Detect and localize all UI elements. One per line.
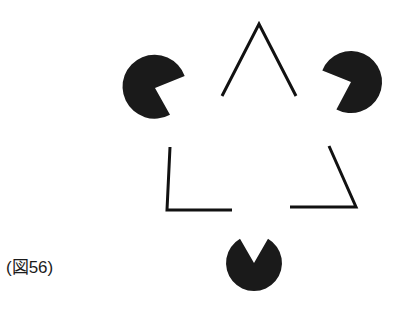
disc-top-left [123, 55, 185, 119]
disc-bottom [226, 239, 282, 291]
triangle-apex-corner-stroke [222, 24, 296, 96]
disc-top-right [322, 51, 382, 113]
figure-canvas [0, 0, 408, 314]
kanizsa-triangle-illustration [0, 0, 408, 314]
triangle-bottom-right-corner-stroke [290, 146, 356, 207]
triangle-bottom-left-corner-stroke [167, 147, 232, 210]
figure-caption: (図56) [6, 253, 53, 278]
